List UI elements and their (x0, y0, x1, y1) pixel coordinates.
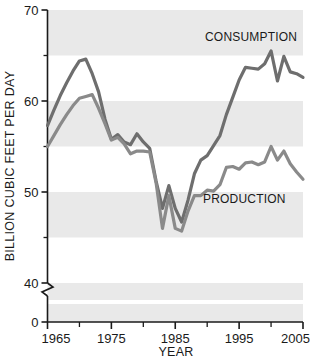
y-axis-title: BILLION CUBIC FEET PER DAY (3, 70, 17, 261)
line-chart: 040506070 19651975198519952005 CONSUMPTI… (0, 0, 312, 363)
y-axis-ticks (42, 10, 48, 322)
x-tick-label: 1965 (42, 331, 71, 346)
x-axis-title: YEAR (158, 345, 193, 359)
y-tick-label: 60 (24, 94, 38, 109)
y-tick-label: 70 (24, 3, 38, 18)
x-axis-tick-labels: 19651975198519952005 (42, 331, 311, 346)
x-tick-label: 1985 (161, 331, 190, 346)
y-axis-tick-labels: 040506070 (24, 3, 38, 330)
series-label-consumption: CONSUMPTION (205, 30, 297, 44)
series-label-production: PRODUCTION (203, 192, 286, 206)
x-axis-ticks (48, 322, 304, 329)
y-tick-label: 0 (31, 315, 38, 330)
y-tick-label: 40 (24, 276, 38, 291)
chart-container: 040506070 19651975198519952005 CONSUMPTI… (0, 0, 312, 363)
x-tick-label: 2005 (281, 331, 310, 346)
background-bands (48, 10, 304, 322)
y-tick-label: 50 (24, 185, 38, 200)
x-tick-label: 1995 (225, 331, 254, 346)
x-tick-label: 1975 (97, 331, 126, 346)
